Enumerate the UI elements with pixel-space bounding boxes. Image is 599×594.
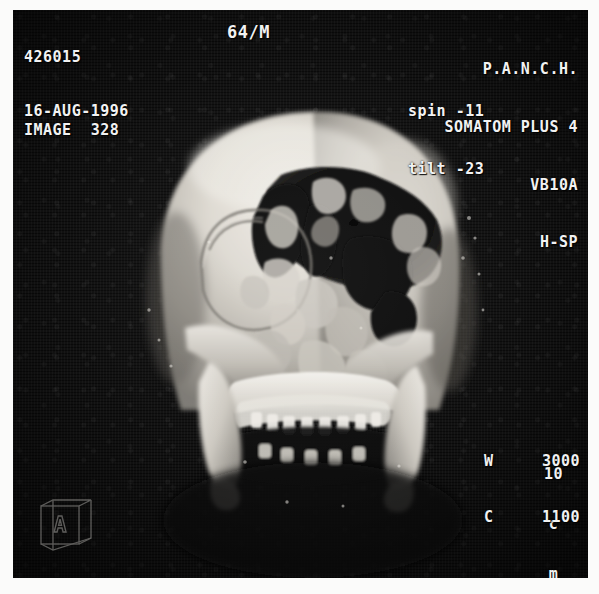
ct-image-frame: 64/M 426015 16-AUG-1996 IMAGE 328 P.A.N.… — [13, 10, 588, 578]
spin-angle: spin -11 — [408, 102, 484, 121]
image-number: IMAGE 328 — [24, 121, 119, 140]
patient-position: H-SP — [445, 233, 578, 252]
tilt-angle: tilt -23 — [408, 160, 484, 179]
window-width-value: 3000 — [524, 452, 580, 471]
window-center-value: 1100 — [524, 508, 580, 527]
ct-viewer-screen: 64/M 426015 16-AUG-1996 IMAGE 328 P.A.N.… — [0, 0, 599, 594]
window-level-block: W 3000 C 1100 — [484, 415, 580, 564]
patient-id: 426015 — [24, 48, 81, 67]
patient-age-sex: 64/M — [227, 22, 270, 44]
view-geometry-block: spin -11 tilt -23 — [408, 64, 484, 218]
window-width-row: W 3000 — [484, 452, 580, 471]
scale-unit-m: m — [525, 566, 582, 578]
window-center-row: C 1100 — [484, 508, 580, 527]
window-width-label: W — [484, 452, 498, 471]
orientation-cube-icon: A — [35, 498, 97, 560]
orientation-face-letter: A — [54, 513, 67, 537]
window-center-label: C — [484, 508, 498, 527]
study-date: 16-AUG-1996 — [24, 102, 129, 121]
